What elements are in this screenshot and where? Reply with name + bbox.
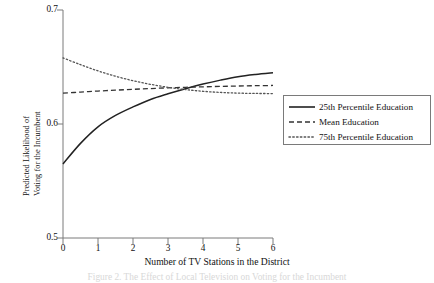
- legend-label-25th-percentile: 25th Percentile Education: [319, 102, 413, 112]
- legend-item-mean: Mean Education: [288, 114, 430, 129]
- legend-swatch-dashed: [288, 117, 316, 127]
- series-line-mean: [63, 85, 273, 93]
- y-axis-ticks: [57, 10, 63, 238]
- chart-legend: 25th Percentile Education Mean Education…: [283, 95, 431, 145]
- x-axis-title: Number of TV Stations in the District: [0, 256, 434, 267]
- legend-item-25th-percentile: 25th Percentile Education: [288, 99, 430, 114]
- x-axis-ticks: [63, 238, 273, 244]
- legend-item-75th-percentile: 75th Percentile Education: [288, 129, 430, 144]
- legend-label-75th-percentile: 75th Percentile Education: [319, 132, 413, 142]
- figure-line-chart: Predicted Likelihood of Voting for the I…: [0, 0, 434, 283]
- legend-label-mean: Mean Education: [319, 117, 379, 127]
- figure-caption: Figure 2. The Effect of Local Television…: [0, 272, 434, 282]
- legend-swatch-dotted: [288, 132, 316, 142]
- legend-swatch-solid: [288, 102, 316, 112]
